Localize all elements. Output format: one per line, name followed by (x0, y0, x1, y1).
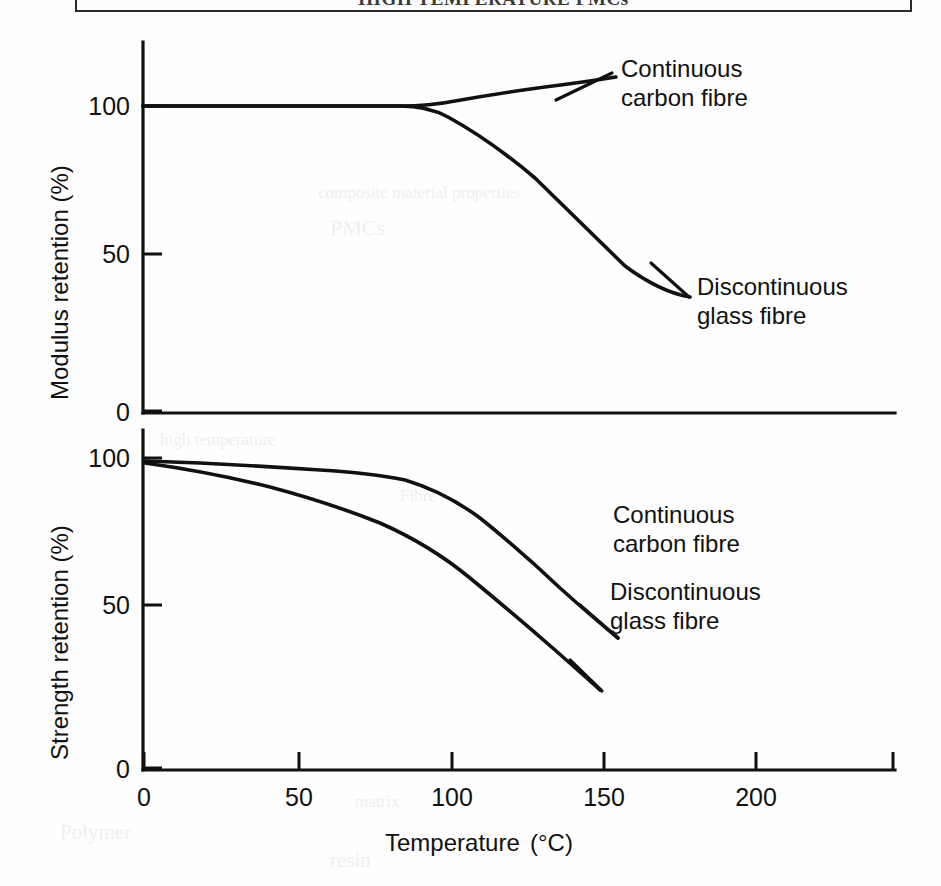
strength-curve-continuous-carbon-fibre (145, 461, 618, 638)
strength-annotation-glass-line2: glass fibre (610, 607, 719, 634)
strength-axis-title: Strength retention (%) (46, 525, 73, 760)
modulus-curve-continuous-carbon-fibre (143, 77, 616, 106)
xticklabel-200: 200 (735, 783, 777, 811)
xticklabel-0: 0 (137, 783, 151, 811)
chart-strength-retention: 100 50 0 Strength retention (%) 0 50 100… (46, 430, 895, 856)
x-axis-title-unit: (°C) (530, 829, 573, 856)
figure-page: HIGH TEMPERATURE PMCs composite material… (0, 0, 941, 886)
modulus-annotation-carbon-line2: carbon fibre (621, 84, 748, 111)
strength-annotation-carbon-line2: carbon fibre (613, 530, 740, 557)
x-axis-title-main: Temperature (385, 829, 520, 856)
modulus-annotation-glass-line1: Discontinuous (697, 273, 848, 300)
modulus-yticklabel-100: 100 (88, 92, 130, 120)
modulus-leader-carbon (556, 73, 612, 100)
modulus-curve-discontinuous-glass-fibre (143, 106, 690, 297)
chart-modulus-retention: 100 50 0 Modulus retention (%) Continuou… (46, 42, 895, 426)
modulus-annotation-carbon-line1: Continuous (621, 55, 742, 82)
retention-charts-svg: 100 50 0 Modulus retention (%) Continuou… (0, 0, 941, 886)
modulus-axis-title: Modulus retention (%) (46, 165, 73, 400)
strength-yticklabel-100: 100 (88, 444, 130, 472)
strength-leader-glass (570, 660, 602, 691)
strength-yticklabel-50: 50 (102, 591, 130, 619)
strength-annotation-glass-line1: Discontinuous (610, 578, 761, 605)
modulus-yticklabel-0: 0 (116, 398, 130, 426)
xticklabel-150: 150 (583, 783, 625, 811)
modulus-annotation-glass-line2: glass fibre (697, 302, 806, 329)
strength-annotation-carbon-line1: Continuous (613, 501, 734, 528)
xticklabel-50: 50 (285, 783, 313, 811)
strength-yticklabel-0: 0 (116, 755, 130, 783)
strength-curve-discontinuous-glass-fibre (145, 463, 600, 690)
modulus-yticklabel-50: 50 (102, 240, 130, 268)
xticklabel-100: 100 (431, 783, 473, 811)
